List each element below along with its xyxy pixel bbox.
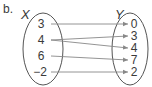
part-label: b. [3,2,13,16]
range-value: 2 [131,65,138,79]
domain-value: 3 [38,17,45,31]
domain-value: −2 [33,65,47,79]
domain-set-label: X [20,7,31,22]
domain-value: 4 [38,33,45,47]
domain-value: 6 [38,49,45,63]
mapping-diagram: b. X Y 3 4 6 −2 0 3 4 7 2 [0,0,152,87]
